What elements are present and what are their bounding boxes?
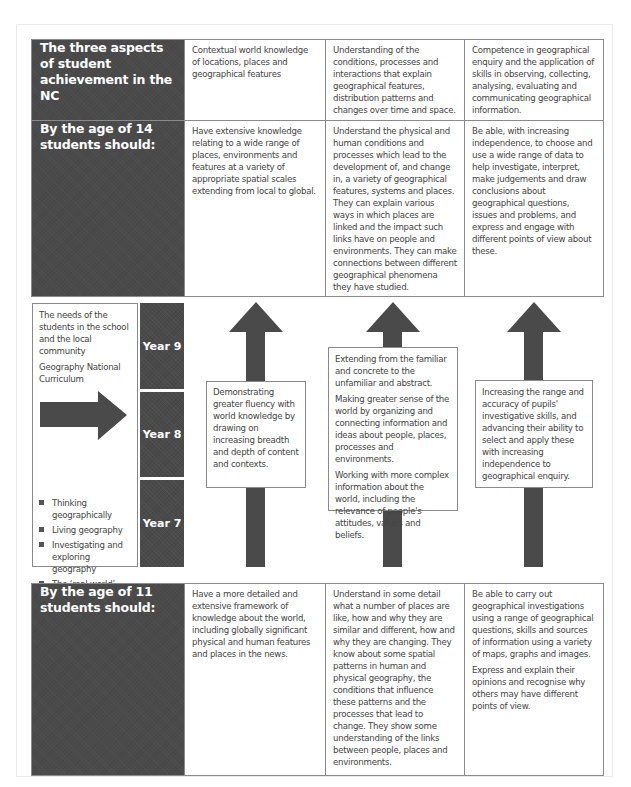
- progression-box-enquiry: Increasing the range and accuracy of pup…: [475, 380, 593, 488]
- right-arrow-icon: [40, 391, 127, 440]
- age-11-row: By the age of 11 students should: Have a…: [32, 584, 604, 776]
- age-11-header-cell: By the age of 11 students should:: [32, 584, 185, 776]
- age-11-cell: Be able to carry out geographical invest…: [465, 584, 604, 776]
- age-11-cell: Have a more detailed and extensive frame…: [185, 584, 326, 776]
- age-11-cell: Understand in some detail what a number …: [326, 584, 465, 776]
- age-11-table: By the age of 11 students should: Have a…: [31, 583, 604, 776]
- progression-box-understanding: Extending from the familiar and concrete…: [328, 347, 458, 511]
- progression-box-knowledge: Demonstrating greater fluency with world…: [206, 381, 306, 488]
- age-11-label: By the age of 11 students should:: [32, 584, 184, 616]
